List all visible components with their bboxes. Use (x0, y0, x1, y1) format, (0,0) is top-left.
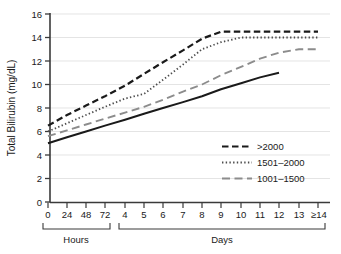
y-axis-title: Total Bilirubin (mg/dL) (6, 60, 17, 157)
x-group-label-days: Days (211, 234, 233, 245)
x-group-labels: Hours Days (63, 234, 233, 245)
y-tick-label: 14 (31, 32, 42, 43)
x-tick-label: 11 (255, 209, 265, 220)
series-line-gt2000 (48, 32, 318, 126)
x-tick-label: 6 (160, 209, 165, 220)
x-tick-labels: 0 24 48 72 4 5 6 7 8 9 10 11 12 13 ≥14 (45, 209, 327, 220)
y-gridlines (50, 14, 330, 179)
x-tick-label: 48 (81, 209, 92, 220)
x-group-brackets (43, 223, 325, 229)
x-tick-label: 24 (62, 209, 73, 220)
y-tick-label: 2 (37, 173, 42, 184)
x-tick-label: 13 (294, 209, 305, 220)
y-tick-label: 16 (31, 9, 42, 20)
y-tick-labels: 16 14 12 10 8 6 4 2 0 (31, 9, 42, 208)
x-axis-ticks (48, 203, 318, 209)
bilirubin-nomogram-chart: 16 14 12 10 8 6 4 2 0 Total Bilirubin (m… (0, 0, 341, 254)
x-tick-label: 9 (218, 209, 223, 220)
y-tick-label: 8 (37, 103, 42, 114)
x-tick-label: 12 (274, 209, 285, 220)
legend-label-gt2000: >2000 (257, 141, 284, 152)
y-tick-label: 10 (31, 79, 42, 90)
x-tick-label: 7 (180, 209, 185, 220)
series-lines (48, 32, 318, 144)
legend-label-1001-1500: 1001–1500 (257, 173, 305, 184)
y-tick-label: 4 (37, 150, 42, 161)
bracket-hours (43, 223, 110, 229)
chart-svg: 16 14 12 10 8 6 4 2 0 Total Bilirubin (m… (0, 0, 341, 254)
y-tick-label: 0 (37, 197, 42, 208)
y-tick-label: 12 (31, 56, 42, 67)
x-tick-label: 4 (122, 209, 127, 220)
bracket-days (119, 223, 325, 229)
x-tick-label: ≥14 (311, 209, 327, 220)
series-line-1001-1500 (48, 49, 318, 136)
chart-legend: >2000 1501–2000 1001–1500 (222, 141, 305, 184)
y-tick-label: 6 (37, 126, 42, 137)
x-tick-label: 0 (45, 209, 50, 220)
x-tick-label: 8 (199, 209, 204, 220)
x-tick-label: 10 (236, 209, 247, 220)
legend-label-1501-2000: 1501–2000 (257, 157, 305, 168)
x-group-label-hours: Hours (63, 234, 89, 245)
x-tick-label: 5 (141, 209, 146, 220)
x-tick-label: 72 (100, 209, 111, 220)
